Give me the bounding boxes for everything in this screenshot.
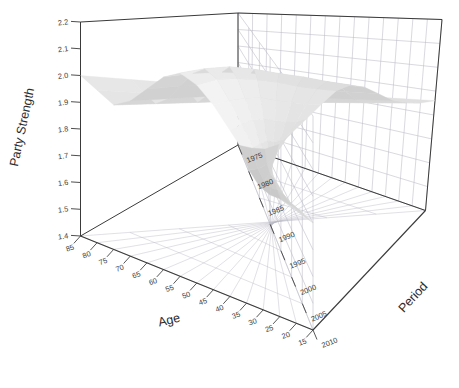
z-axis-tick	[71, 235, 81, 236]
surface-plot-figure: 2.22.12.01.91.81.71.61.51.4Party Strengt…	[0, 0, 459, 388]
z-axis-tick-label: 2.0	[57, 71, 68, 81]
x-axis-tick	[90, 243, 97, 250]
x-axis-tick	[107, 249, 114, 256]
grid-line-floor	[180, 182, 345, 276]
z-axis-tick	[71, 102, 81, 103]
grid-line-floor	[130, 232, 302, 303]
grid-line-floor	[164, 187, 359, 270]
y-axis-tick-label: 2000	[299, 283, 318, 298]
x-axis-tick	[240, 303, 247, 310]
z-axis-tick-label: 1.7	[57, 151, 68, 161]
x-axis-tick-label: 55	[164, 283, 175, 294]
y-axis-tick	[281, 251, 285, 261]
grid-line-floor	[97, 206, 412, 243]
z-axis-tick-label: 1.9	[57, 97, 68, 107]
y-axis-tick-label: 2005	[310, 309, 329, 324]
grid-line-floor	[147, 192, 372, 263]
x-axis-tick-label: 80	[81, 249, 92, 260]
x-axis-tick	[273, 317, 280, 324]
x-axis-tick-label: 65	[131, 269, 142, 280]
x-axis-tick	[157, 270, 164, 277]
z-axis-tick	[71, 209, 81, 210]
grid-line-floor	[130, 197, 385, 257]
x-axis-tick	[74, 236, 81, 243]
z-axis-tick-label: 1.8	[57, 124, 68, 134]
plot-canvas: 2.22.12.01.91.81.71.61.51.4Party Strengt…	[0, 0, 459, 388]
x-axis-tick-label: 60	[148, 276, 159, 287]
surface-facet	[81, 76, 144, 94]
y-axis-tick-label: 1995	[288, 256, 307, 271]
z-axis-tick	[71, 155, 81, 156]
z-axis-title: Party Strength	[7, 87, 37, 168]
y-axis-title: Period	[396, 279, 431, 315]
x-axis-tick-label: 15	[297, 336, 308, 347]
x-axis-tick	[190, 283, 197, 290]
z-axis-tick-label: 1.4	[57, 231, 68, 241]
y-axis-tick	[302, 304, 306, 314]
z-axis: 2.22.12.01.91.81.71.61.51.4Party Strengt…	[7, 17, 81, 241]
z-axis-tick	[71, 21, 81, 22]
x-axis-tick-label: 50	[181, 289, 192, 300]
z-axis-tick-label: 2.1	[57, 44, 68, 54]
x-axis-tick-label: 75	[98, 256, 109, 267]
z-axis-tick	[71, 48, 81, 49]
box-edge-top-left	[81, 13, 239, 22]
x-axis-tick-label: 85	[65, 242, 76, 253]
x-axis-tick	[174, 276, 181, 283]
x-axis-tick-label: 20	[280, 330, 291, 341]
z-axis-tick-label: 1.6	[57, 178, 68, 188]
x-axis-tick-label: 45	[197, 296, 208, 307]
z-axis-tick	[71, 75, 81, 76]
x-axis-tick-label: 40	[214, 303, 225, 314]
x-axis-tick	[257, 310, 264, 317]
x-axis-tick	[306, 330, 313, 337]
x-axis-tick	[124, 256, 131, 263]
x-axis: 858075706560555045403530252015Age	[65, 236, 313, 348]
x-axis-tick-label: 30	[247, 316, 258, 327]
z-axis-tick-label: 1.5	[57, 204, 68, 214]
z-axis-tick	[71, 128, 81, 129]
y-axis-tick-label: 2010	[320, 335, 339, 350]
x-axis-tick	[223, 296, 230, 303]
z-axis-tick	[71, 182, 81, 183]
grid-line-floor	[81, 211, 426, 237]
x-axis-tick	[290, 323, 297, 330]
box-edge-right-vertical	[426, 20, 443, 211]
y-axis-tick	[259, 198, 263, 208]
x-axis-tick	[140, 263, 147, 270]
surface-mesh	[81, 67, 436, 223]
x-axis-tick-label: 35	[231, 310, 242, 321]
z-axis-tick-label: 2.2	[57, 17, 68, 27]
grid-line-horizontal	[238, 46, 438, 67]
x-axis-tick-label: 70	[114, 263, 125, 274]
y-axis-tick	[292, 277, 296, 287]
x-axis-title: Age	[157, 311, 182, 330]
y-axis-tick	[313, 330, 317, 340]
box-edge-floor-left	[81, 145, 239, 236]
box-edges-front	[81, 211, 426, 331]
x-axis-tick	[207, 290, 214, 297]
grid-line-floor	[197, 178, 332, 283]
x-axis-tick-label: 25	[264, 323, 275, 334]
